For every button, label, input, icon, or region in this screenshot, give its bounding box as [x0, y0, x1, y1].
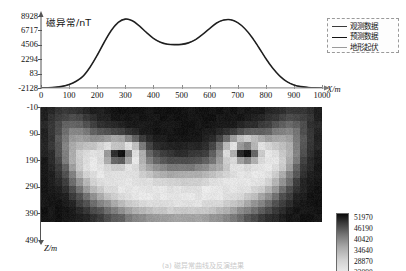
legend-item-observed: 观测数据	[330, 22, 396, 32]
figure-panel: 磁异常/nT 892867174506229483-2128 010020030…	[0, 0, 406, 271]
legend-swatch-terrain	[332, 47, 347, 48]
colorbar-tick-label: 40420	[354, 236, 373, 244]
colorbar-tick-label: 51970	[354, 214, 373, 222]
legend-item-predicted: 预测数据	[330, 32, 396, 42]
bottom-panel-axis-arrow	[38, 240, 44, 245]
legend-swatch-predicted	[332, 37, 347, 38]
legend-label-observed: 观测数据	[350, 23, 378, 31]
figure-caption: (a) 磁异常曲线及反演结果	[0, 262, 406, 270]
bottom-ytick: 490	[25, 236, 38, 245]
bottom-panel-y-axis: -1090190290390490	[0, 100, 38, 260]
legend: 观测数据 预测数据 地形起伏	[327, 18, 399, 53]
legend-item-terrain: 地形起伏	[330, 43, 396, 53]
inversion-section-panel: -1090190290390490 Z/m 519704619040420346…	[0, 100, 406, 271]
legend-label-predicted: 预测数据	[350, 33, 378, 41]
inversion-heatmap	[41, 107, 322, 222]
bottom-panel-ylabel: Z/m	[44, 243, 57, 253]
legend-swatch-observed	[332, 26, 347, 27]
colorbar-tick-label: 34640	[354, 247, 373, 255]
heatmap-canvas	[41, 107, 322, 222]
legend-label-terrain: 地形起伏	[350, 44, 378, 52]
colorbar-tick-label: 46190	[354, 225, 373, 233]
